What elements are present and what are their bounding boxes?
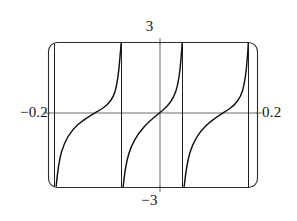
plot-frame — [49, 43, 258, 188]
y-max-label-text: 3 — [146, 18, 154, 34]
x-max-label: 0.2 — [262, 104, 297, 121]
y-max-label: 3 — [0, 18, 297, 35]
x-min-label: −0.2 — [4, 104, 48, 121]
graph-figure: 3 −3 −0.2 0.2 — [0, 0, 297, 221]
y-min-label-text: −3 — [141, 192, 157, 208]
y-min-label: −3 — [0, 192, 297, 209]
